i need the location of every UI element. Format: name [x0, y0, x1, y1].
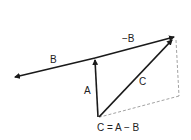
label-b: B — [50, 54, 57, 65]
vector-c — [99, 40, 172, 117]
label-a: A — [84, 85, 91, 96]
label-neg-b: −B — [122, 33, 135, 44]
label-c: C — [139, 76, 146, 87]
vector-a — [95, 60, 98, 117]
vector-subtraction-diagram: B −B A C C = A − B — [0, 0, 191, 140]
caption-c-equals-a-minus-b: C = A − B — [97, 122, 140, 133]
